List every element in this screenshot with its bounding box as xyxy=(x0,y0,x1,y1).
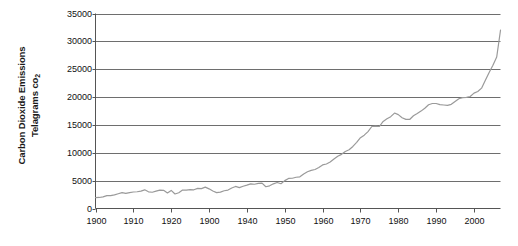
horizontal-grid-lines xyxy=(96,15,501,182)
emissions-line-series xyxy=(96,30,501,197)
plot-area xyxy=(0,0,518,246)
x-axis-tick-marks xyxy=(97,209,475,213)
co2-emissions-line-chart: Carbon Dioxide Emissions Telagrams co2 0… xyxy=(0,0,518,246)
axis-lines xyxy=(96,14,501,209)
